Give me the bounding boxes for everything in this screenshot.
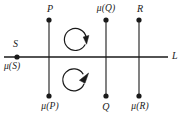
figure-container: S μ(S) P μ(P) μ(Q) Q R μ(R) L: [0, 0, 184, 121]
label-r: R: [137, 4, 143, 14]
label-mu-p: μ(P): [41, 102, 58, 112]
point-dot-p: [46, 17, 51, 22]
point-dot-q: [103, 93, 108, 98]
diagram-canvas: [0, 0, 184, 121]
point-dot-mu-r: [136, 93, 141, 98]
label-l: L: [172, 51, 178, 61]
label-q: Q: [102, 102, 109, 112]
rotation-arrow-lower-icon: [63, 69, 89, 91]
point-dot-r: [136, 17, 141, 22]
point-dot-mu-p: [46, 93, 51, 98]
label-s: S: [13, 39, 18, 49]
point-dot-mu-q: [103, 17, 108, 22]
label-mu-q: μ(Q): [97, 4, 115, 14]
point-dot-s: [14, 54, 19, 59]
rotation-arrow-upper-icon: [64, 28, 89, 50]
label-p: P: [47, 4, 53, 14]
label-mu-r: μ(R): [131, 102, 148, 112]
label-mu-s: μ(S): [4, 62, 20, 72]
